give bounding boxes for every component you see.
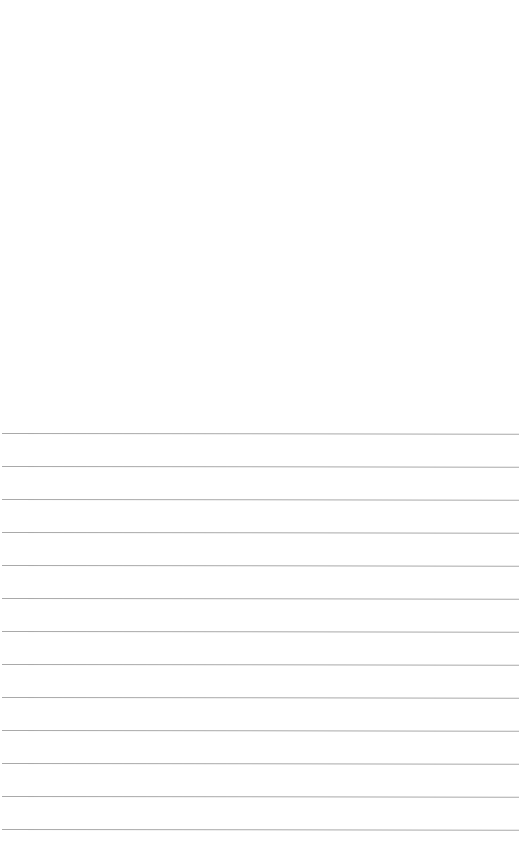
ruled-line [2,829,519,831]
ruled-line [2,433,519,435]
ruled-line [2,565,519,567]
lined-paper-page [0,0,521,866]
ruled-line [2,730,519,732]
ruled-line [2,763,519,765]
ruled-line [2,499,519,501]
ruled-line [2,631,519,633]
ruled-line [2,532,519,534]
ruled-line [2,697,519,699]
ruled-lines-area [0,425,521,866]
ruled-line [2,598,519,600]
ruled-line [2,466,519,468]
blank-writing-area [0,0,521,425]
ruled-line [2,796,519,798]
ruled-line [2,664,519,666]
